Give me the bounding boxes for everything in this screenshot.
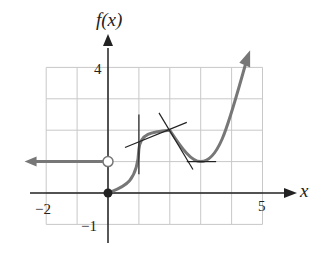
y-tick-neg1: −1: [81, 218, 97, 234]
y-tick-4: 4: [94, 61, 102, 77]
y-axis-label: f(x): [96, 9, 122, 31]
x-tick-5: 5: [258, 198, 266, 214]
right-arrow-icon: [239, 50, 250, 67]
x-axis-label: x: [299, 180, 309, 201]
labels: f(x) x 4 −1 −2 5: [35, 9, 309, 234]
open-circle: [103, 157, 113, 167]
left-arrow-icon: [25, 157, 37, 167]
axes: [30, 34, 297, 243]
function-graph: f(x) x 4 −1 −2 5: [0, 0, 324, 253]
function-curve: [108, 64, 246, 193]
grid: [46, 67, 262, 224]
series: [25, 50, 251, 193]
filled-dot: [104, 189, 113, 198]
x-tick-neg2: −2: [35, 201, 51, 217]
x-axis-arrow-icon: [284, 188, 297, 198]
tangent-line: [159, 113, 193, 170]
y-axis-arrow-icon: [103, 34, 113, 46]
tangent-lines: [125, 113, 216, 174]
